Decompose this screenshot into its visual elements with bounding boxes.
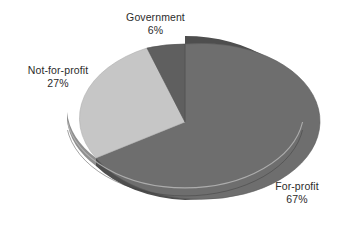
pie-label-not-for-profit-name: Not-for-profit [2, 64, 114, 77]
pie-label-not-for-profit: Not-for-profit 27% [2, 64, 114, 89]
pie-label-for-profit-name: For-profit [248, 180, 346, 193]
pie-top-surface [79, 43, 320, 199]
pie-label-government-name: Government [98, 11, 213, 24]
pie-label-not-for-profit-value: 27% [2, 77, 114, 90]
pie-label-for-profit-value: 67% [248, 193, 346, 206]
pie-label-government: Government 6% [98, 11, 213, 36]
pie-label-for-profit: For-profit 67% [248, 180, 346, 205]
pie-chart-figure: Government 6% Not-for-profit 27% For-pro… [0, 0, 351, 225]
pie-label-government-value: 6% [98, 24, 213, 37]
